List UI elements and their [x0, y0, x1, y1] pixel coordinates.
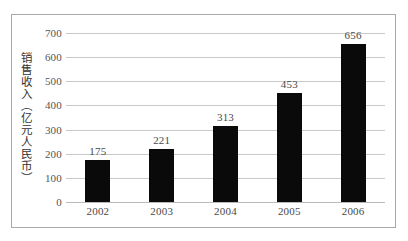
x-axis-tick-labels: 20022003200420052006: [66, 205, 385, 225]
y-axis-tick-label: 300: [22, 124, 62, 135]
bar[interactable]: [341, 44, 366, 202]
gridline: [66, 105, 385, 106]
y-axis-tick-label: 200: [22, 148, 62, 159]
bar-value-label: 313: [203, 112, 249, 123]
y-axis-tick-label: 600: [22, 52, 62, 63]
chart-screenshot: 销售收入（亿元人民币） 0100200300400500600700 17522…: [0, 0, 408, 241]
y-axis-tick-labels: 0100200300400500600700: [16, 33, 62, 202]
x-axis-tick-label: 2006: [327, 205, 379, 217]
x-axis-tick-label: 2002: [72, 205, 124, 217]
gridline: [66, 202, 385, 203]
x-axis-tick-label: 2004: [200, 205, 252, 217]
bar[interactable]: [213, 126, 238, 202]
bar-value-label: 453: [266, 79, 312, 90]
bar-value-label: 175: [75, 146, 121, 157]
y-axis-tick-label: 400: [22, 100, 62, 111]
x-axis-tick-label: 2005: [263, 205, 315, 217]
plot-area: 175221313453656: [66, 33, 385, 202]
y-axis-tick-label: 100: [22, 172, 62, 183]
gridline: [66, 81, 385, 82]
y-axis-tick-label: 700: [22, 28, 62, 39]
bar[interactable]: [85, 160, 110, 202]
bar-value-label: 221: [139, 135, 185, 146]
y-axis-tick-label: 0: [22, 197, 62, 208]
bar[interactable]: [277, 93, 302, 202]
x-axis-tick-label: 2003: [136, 205, 188, 217]
bar[interactable]: [149, 149, 174, 202]
bar-value-label: 656: [330, 30, 376, 41]
y-axis-tick-label: 500: [22, 76, 62, 87]
gridline: [66, 57, 385, 58]
